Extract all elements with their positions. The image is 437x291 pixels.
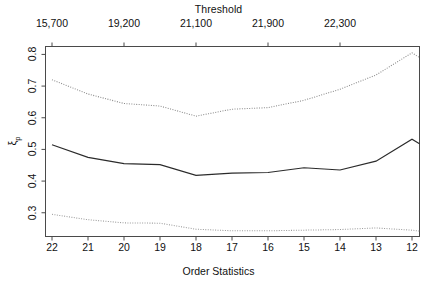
series-upper-confidence-bound bbox=[52, 53, 420, 116]
chart-figure: Threshold 15,70019,20021,10021,90022,300… bbox=[0, 0, 437, 291]
series-lower-confidence-bound bbox=[52, 214, 420, 231]
plot-frame bbox=[46, 47, 420, 237]
plot-canvas bbox=[0, 0, 437, 291]
series-estimate bbox=[52, 139, 420, 175]
axis-tick-marks bbox=[42, 43, 413, 241]
data-series-layer bbox=[52, 53, 420, 231]
